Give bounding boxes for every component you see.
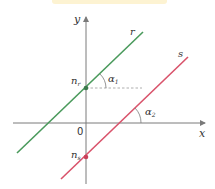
origin-label: 0 [77,126,83,137]
line-r-label: r [130,26,136,37]
y-axis-label: y [73,13,81,26]
intercept-label-s: ns [71,149,81,161]
intercept-point-s [84,155,89,160]
x-axis-label: x [199,127,206,140]
angle-label-alpha1: α1 [108,73,119,85]
intercept-point-r [84,86,89,91]
angle-arc-alpha1 [100,74,106,88]
line-s-label: s [178,48,183,59]
intercept-label-r: nr [71,75,81,87]
angle-label-alpha2: α2 [145,106,156,118]
coordinate-diagram: y x 0 r s nr ns α1 α2 [0,0,215,189]
angle-arc-alpha2 [135,108,141,123]
